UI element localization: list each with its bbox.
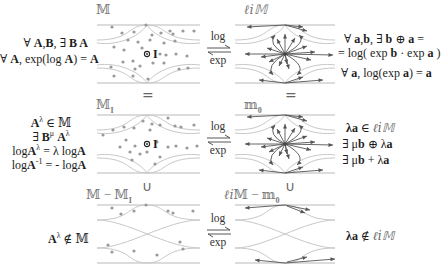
vector-arrowhead <box>291 128 295 133</box>
group-element-dot <box>118 145 121 148</box>
group-element-dot <box>132 30 135 33</box>
group-element-dot <box>133 144 136 147</box>
group-element-dot <box>158 123 161 126</box>
identity-point <box>146 53 148 55</box>
group-element-dot <box>164 53 167 56</box>
group-element-dot <box>122 125 125 128</box>
vector-arrowhead <box>306 147 311 151</box>
group-element-dot <box>144 203 147 206</box>
lens-curve <box>97 154 147 173</box>
group-element-dot <box>121 60 124 63</box>
group-element-dot <box>185 146 188 149</box>
group-element-dot <box>181 247 184 250</box>
vector-arrowhead <box>245 206 250 210</box>
tangent-vector <box>285 54 333 55</box>
group-element-dot <box>110 25 113 28</box>
group-element-dot <box>109 65 112 68</box>
vector-arrowhead <box>328 143 333 147</box>
group-element-dot <box>122 48 125 51</box>
group-element-dot <box>124 138 127 141</box>
vector-arrowhead <box>305 207 310 211</box>
group-element-dot <box>145 150 148 153</box>
group-element-dot <box>173 124 176 127</box>
vector-arrowhead <box>261 54 266 58</box>
group-element-dot <box>146 77 149 80</box>
group-element-dot <box>132 209 135 212</box>
group-element-dot <box>131 59 134 62</box>
vector-arrowhead <box>267 48 272 52</box>
group-element-dot <box>173 39 176 42</box>
vector-arrowhead <box>261 144 266 148</box>
group-element-dot <box>140 46 143 49</box>
group-element-dot <box>106 243 109 246</box>
lens-curve <box>147 64 200 83</box>
vector-arrowhead <box>328 53 333 57</box>
group-element-dot <box>158 155 161 158</box>
cusp-curve <box>285 205 335 220</box>
vector-arrowhead <box>306 57 311 61</box>
group-element-dot <box>151 61 154 64</box>
vector-arrowhead <box>297 161 302 165</box>
group-element-dot <box>178 240 181 243</box>
cusp-curve <box>97 248 147 263</box>
vector-arrowhead <box>297 71 302 75</box>
group-element-dot <box>159 31 162 34</box>
vector-arrowhead <box>283 34 287 39</box>
group-element-dot <box>168 29 171 32</box>
group-element-dot <box>138 64 141 67</box>
group-element-dot <box>150 122 153 125</box>
group-element-dot <box>166 209 169 212</box>
group-element-dot <box>171 32 174 35</box>
group-element-dot <box>162 61 165 64</box>
group-element-dot <box>171 211 174 214</box>
cusp-curve <box>97 205 147 220</box>
vector-arrowhead <box>291 38 295 43</box>
group-element-dot <box>136 40 139 43</box>
vector-arrowhead <box>267 138 272 142</box>
group-element-dot <box>112 45 115 48</box>
group-element-dot <box>155 253 158 256</box>
vector-arrowhead <box>318 78 323 82</box>
group-element-dot <box>192 123 195 126</box>
identity-point <box>146 143 148 145</box>
group-element-dot <box>131 74 134 77</box>
tangent-vector <box>285 144 333 145</box>
vector-arrowhead <box>318 168 323 172</box>
identity-label-2: I <box>153 137 158 151</box>
vector-arrowhead <box>330 257 335 261</box>
group-element-dot <box>132 126 135 129</box>
group-element-dot <box>150 33 153 36</box>
crossing-curve <box>97 220 200 248</box>
origin-point <box>283 142 287 146</box>
group-element-dot <box>112 74 115 77</box>
group-element-dot <box>179 125 182 128</box>
group-element-dot <box>166 145 169 148</box>
group-element-dot <box>126 38 129 41</box>
group-element-dot <box>110 206 113 209</box>
vector-arrowhead <box>302 136 307 140</box>
group-element-dot <box>166 116 169 119</box>
vector-arrowhead <box>302 46 307 50</box>
cusp-curve <box>147 248 200 263</box>
group-element-dot <box>158 52 161 55</box>
group-element-dot <box>101 133 104 136</box>
vector-arrowhead <box>269 70 273 75</box>
group-element-dot <box>119 212 122 215</box>
group-element-dot <box>192 29 195 32</box>
lens-curve <box>147 115 200 134</box>
group-element-dot <box>185 54 188 57</box>
origin-point <box>283 52 287 56</box>
group-element-dot <box>138 152 141 155</box>
group-element-dot <box>133 67 136 70</box>
group-element-dot <box>177 67 180 70</box>
group-element-dot <box>162 41 165 44</box>
group-element-dot <box>174 52 177 55</box>
crossing-curve <box>235 220 335 248</box>
group-element-dot <box>181 29 184 32</box>
group-element-dot <box>128 150 131 153</box>
identity-label-1: I <box>153 47 158 61</box>
vector-arrowhead <box>245 52 250 56</box>
group-element-dot <box>186 66 189 69</box>
vector-arrowhead <box>310 140 315 144</box>
group-element-dot <box>174 144 177 147</box>
